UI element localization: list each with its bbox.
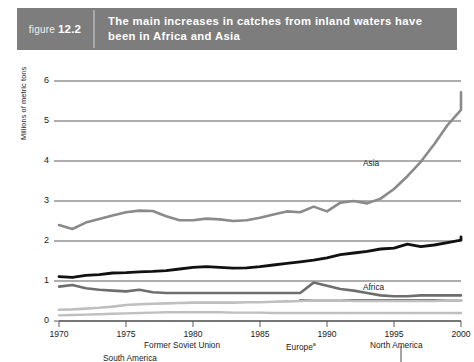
series-line xyxy=(59,283,461,297)
figure-title: The main increases in catches from inlan… xyxy=(95,8,457,50)
series-line xyxy=(59,237,461,277)
series-line xyxy=(59,300,461,310)
figure-number-block: figure 12.2 xyxy=(17,8,93,50)
series-label-europe: Europea xyxy=(286,341,316,352)
figure-number: 12.2 xyxy=(58,23,81,35)
figure-word: figure xyxy=(29,24,55,35)
series-label-former-soviet-union: Former Soviet Union xyxy=(144,340,220,350)
figure-container: figure 12.2 The main increases in catche… xyxy=(0,0,474,362)
figure-header: figure 12.2 The main increases in catche… xyxy=(17,8,457,50)
series-line xyxy=(59,312,461,315)
chart-area: Millions of metric tons 0123456 19701975… xyxy=(0,54,474,362)
series-label-north-america: North America xyxy=(370,340,423,350)
series-label-africa: Africa xyxy=(363,282,384,292)
series-label-south-america: South America xyxy=(103,353,157,362)
line-plot xyxy=(0,54,474,362)
series-label-asia: Asia xyxy=(363,158,379,168)
